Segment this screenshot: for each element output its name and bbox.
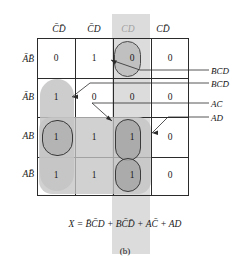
kmap-cell-r1c2: 0 (113, 92, 151, 102)
kmap-cell-r0c2: 0 (113, 53, 151, 63)
kmap-row-header-3: AB̄ (6, 169, 34, 179)
kmap-cell-r0c0: 0 (37, 53, 75, 63)
annotation-label-0: B̄C̄D (211, 66, 229, 76)
kmap-cell-r2c0: 1 (37, 132, 75, 142)
kmap-cell-r1c1: 0 (75, 92, 113, 102)
annotation-label-3: AD (211, 113, 223, 123)
result-equation: X = B̄C̄D + BC̄D̄ + AC̄ + AD (0, 219, 250, 229)
kmap-cell-r0c1: 1 (75, 53, 113, 63)
kmap-row-header-2: AB (6, 131, 34, 141)
figure-caption: (b) (0, 246, 250, 256)
kmap-column-header-0: C̄D̄ (42, 24, 76, 34)
kmap-column-header-1: C̄D (77, 24, 111, 34)
kmap-cell-r2c2: 1 (113, 132, 151, 142)
kmap-cell-r0c3: 0 (151, 53, 189, 63)
kmap-column-header-3: CD̄ (146, 24, 180, 34)
kmap-row-header-0: ĀB̄ (6, 54, 34, 64)
kmap-row-header-1: ĀB (6, 92, 34, 102)
kmap-cell-r2c3: 0 (151, 132, 189, 142)
kmap-cell-r3c3: 0 (151, 170, 189, 180)
annotation-label-1: BC̄D̄ (211, 79, 229, 89)
kmap-cell-r2c1: 1 (75, 132, 113, 142)
kmap-cell-r3c0: 1 (37, 170, 75, 180)
kmap-figure: C̄D̄ C̄D CD CD̄ ĀB̄ ĀB AB AB̄ 0 1 0 0 … (0, 0, 250, 268)
kmap-cell-r1c3: 0 (151, 92, 189, 102)
kmap-cell-r3c2: 1 (113, 170, 151, 180)
kmap-cell-r3c1: 1 (75, 170, 113, 180)
kmap-cell-r1c0: 1 (37, 92, 75, 102)
annotation-label-2: AC̄ (211, 99, 223, 109)
